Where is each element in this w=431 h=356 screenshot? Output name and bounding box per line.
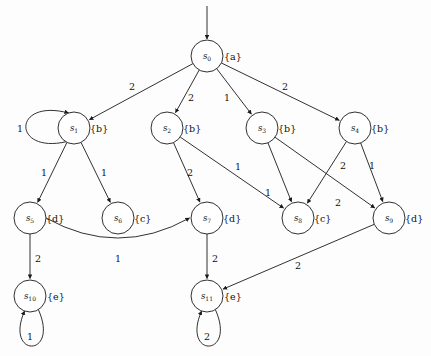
node-s9[interactable]: s9{d} xyxy=(373,202,423,234)
edge-label-s0-s4: 2 xyxy=(282,81,288,92)
node-s2[interactable]: s2{b} xyxy=(151,112,201,144)
node-atomic-props-s11: {e} xyxy=(224,291,242,302)
edge-label-s0-s2: 2 xyxy=(188,92,194,103)
edge-s4-to-s8 xyxy=(307,142,346,204)
edge-label-s3-s8: 1 xyxy=(265,187,271,198)
node-s8[interactable]: s8{c} xyxy=(282,202,331,234)
edge-label-s7-s11: 2 xyxy=(212,253,218,264)
node-atomic-props-s9: {d} xyxy=(405,213,423,224)
edge-label-s10-s10: 1 xyxy=(27,331,33,342)
node-atomic-props-s2: {b} xyxy=(183,123,201,134)
node-atomic-props-s1: {b} xyxy=(90,123,108,134)
edge-label-s0-s3: 1 xyxy=(224,92,230,103)
node-s4[interactable]: s4{b} xyxy=(339,112,389,144)
edge-label-s4-s9: 1 xyxy=(369,160,375,171)
node-s10[interactable]: s10{e} xyxy=(14,280,65,312)
edge-s0-to-s4 xyxy=(221,63,339,120)
diagram-canvas: s0{a}s1{b}s2{b}s3{b}s4{b}s5{d}s6{c}s7{d}… xyxy=(0,0,431,356)
edge-label-s5-s10: 2 xyxy=(35,253,41,264)
edge-label-s9-s11: 2 xyxy=(295,260,301,271)
node-s6[interactable]: s6{c} xyxy=(102,202,151,234)
node-s0[interactable]: s0{a} xyxy=(191,40,242,72)
edge-s4-to-s9 xyxy=(361,143,383,202)
node-atomic-props-s10: {e} xyxy=(47,291,65,302)
edge-label-s5-s7: 1 xyxy=(115,253,121,264)
node-s5[interactable]: s5{d} xyxy=(14,202,64,234)
edge-label-s0-s1: 2 xyxy=(129,81,135,92)
node-layer: s0{a}s1{b}s2{b}s3{b}s4{b}s5{d}s6{c}s7{d}… xyxy=(14,40,423,312)
node-s3[interactable]: s3{b} xyxy=(246,112,296,144)
node-atomic-props-s7: {d} xyxy=(223,213,241,224)
edge-label-s2-s7: 2 xyxy=(187,167,193,178)
node-atomic-props-s0: {a} xyxy=(224,51,242,62)
edge-label-s1-s5: 1 xyxy=(41,167,47,178)
edge-label-s4-s8: 2 xyxy=(340,160,346,171)
edge-label-s3-s9: 2 xyxy=(335,197,341,208)
edge-s0-to-s1 xyxy=(89,64,193,120)
node-s1[interactable]: s1{b} xyxy=(58,112,108,144)
node-atomic-props-s3: {b} xyxy=(278,123,296,134)
node-s7[interactable]: s7{d} xyxy=(191,202,241,234)
node-atomic-props-s5: {d} xyxy=(46,213,64,224)
node-atomic-props-s8: {c} xyxy=(314,213,331,224)
edge-label-s1-s1: 1 xyxy=(17,123,23,134)
edge-label-s2-s8: 1 xyxy=(235,161,241,172)
edge-label-s1-s6: 1 xyxy=(101,167,107,178)
edge-s3-to-s8 xyxy=(268,143,292,202)
node-atomic-props-s6: {c} xyxy=(134,213,151,224)
state-transition-graph: s0{a}s1{b}s2{b}s3{b}s4{b}s5{d}s6{c}s7{d}… xyxy=(0,0,431,356)
node-atomic-props-s4: {b} xyxy=(371,123,389,134)
edge-label-s11-s11: 2 xyxy=(204,331,210,342)
